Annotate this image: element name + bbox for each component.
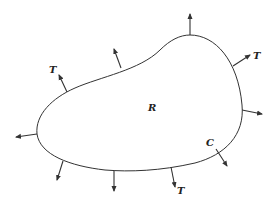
traction-arrow-upper-right [233,55,250,66]
traction-label-bottom: T [177,185,186,196]
traction-arrow-right [242,110,262,114]
region-boundary-diagram: R C T T T [0,0,277,204]
traction-label-upper-right: T [253,50,262,61]
traction-arrow-upper [114,49,121,68]
curve-label: C [206,137,214,148]
boundary-curve-c [37,35,242,171]
traction-arrow-upper-left [59,75,67,92]
region-label: R [147,102,156,113]
traction-arrow-bottom-right [171,167,175,187]
traction-arrow-lower-right [216,149,227,166]
traction-arrow-left [16,134,37,137]
traction-label-upper-left: T [49,64,58,75]
traction-arrow-lower-left [57,161,63,180]
